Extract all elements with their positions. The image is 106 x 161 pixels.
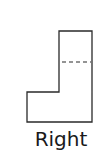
view-outline (27, 31, 92, 122)
view-label: Right (0, 127, 106, 151)
orthographic-view-figure: Right (0, 0, 106, 161)
